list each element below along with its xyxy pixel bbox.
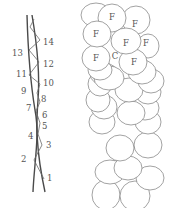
label-14: 14 [43,37,54,47]
cell-label-f: F [143,38,149,48]
cell [117,101,145,125]
label-11: 11 [16,69,27,79]
cell-label-f: F [93,53,99,63]
label-9: 9 [21,86,26,96]
cell [134,132,162,158]
diagram-canvas: 1 2 3 4 5 6 7 8 9 10 11 12 13 14 [0,0,171,208]
label-6: 6 [42,110,47,120]
cell-label-c: C [112,51,119,61]
label-4: 4 [28,131,33,141]
label-5: 5 [42,121,47,131]
cell [92,180,120,208]
label-7: 7 [26,103,31,113]
label-12: 12 [43,59,54,69]
cell [106,135,134,161]
label-3: 3 [46,140,51,150]
label-10: 10 [43,78,54,88]
cell-label-f: F [132,19,138,29]
cell-label-f: F [131,57,137,67]
node-labels: 1 2 3 4 5 6 7 8 9 10 11 12 13 14 [12,37,54,183]
cell-label-f: F [109,12,115,22]
cell-label-f: F [123,38,129,48]
label-2: 2 [21,154,26,164]
label-1: 1 [47,173,52,183]
label-13: 13 [12,48,23,58]
cell-label-f: F [93,29,99,39]
label-8: 8 [41,94,46,104]
